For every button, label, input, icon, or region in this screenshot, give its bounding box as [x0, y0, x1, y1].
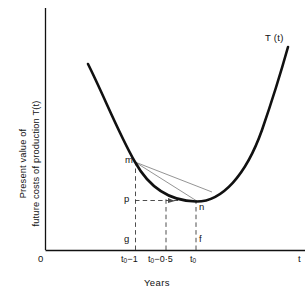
y-axis-title: Present value of future costs of product…	[17, 76, 42, 252]
point-label-n: n	[199, 202, 204, 212]
y-axis-title-line1: Present value of	[17, 76, 30, 252]
curve-label-Tt: T (t)	[265, 33, 284, 43]
x-tick-label-t0-minus-1: t0−1	[121, 255, 138, 264]
x-tick-label-t0-minus-0p5: t0−0·5	[148, 255, 173, 264]
point-label-f: f	[199, 234, 202, 244]
tick-sub: 0	[193, 257, 197, 264]
y-axis-title-line2: future costs of production T(t)	[29, 76, 42, 252]
tick-tail: −1	[127, 254, 137, 264]
cost-curve	[88, 47, 288, 202]
point-label-g: g	[124, 234, 129, 244]
x-axis-title: Years	[144, 278, 170, 288]
point-label-m: m	[125, 155, 133, 165]
tick-tail: −0·5	[154, 254, 173, 264]
figure-root: T (t) m p n g f 0 t t0−1 t0−0·5 t0 Years…	[0, 0, 308, 296]
plot-canvas	[0, 0, 308, 296]
point-label-p: p	[124, 194, 129, 204]
axis-origin-label: 0	[38, 254, 43, 264]
x-axis-name: t	[298, 254, 301, 264]
x-tick-label-t0: t0	[190, 255, 196, 264]
